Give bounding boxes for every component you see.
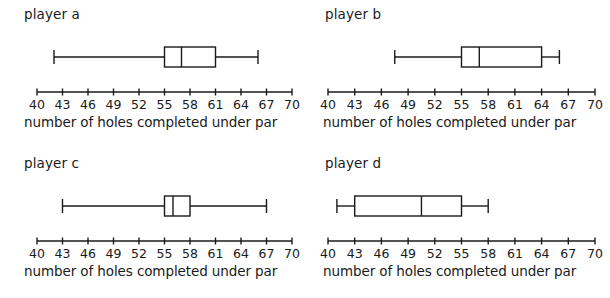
axis-tick-label: 70	[587, 246, 603, 261]
axis-tick-label: 43	[347, 97, 363, 112]
axis-tick-label: 55	[454, 97, 470, 112]
axis-tick-label: 55	[157, 97, 173, 112]
axis-tick-label: 46	[80, 246, 96, 261]
axis-tick-label: 40	[29, 97, 45, 112]
axis-caption-player-b: number of holes completed under par	[323, 114, 576, 130]
interquartile-box	[165, 196, 191, 216]
axis-tick-label: 49	[106, 246, 122, 261]
axis-caption-player-d: number of holes completed under par	[323, 263, 576, 279]
panel-player-c: player c 4043464952555861646770 number o…	[0, 149, 305, 298]
boxplot-figure-grid: player a 4043464952555861646770 number o…	[0, 0, 610, 298]
axis-tick-label: 70	[284, 97, 300, 112]
axis-tick-label: 40	[29, 246, 45, 261]
axis-tick-label: 52	[427, 97, 443, 112]
axis-tick-label: 64	[233, 97, 249, 112]
axis-tick-label: 67	[259, 97, 275, 112]
axis-tick-label: 70	[284, 246, 300, 261]
axis-tick-label: 67	[560, 97, 576, 112]
axis-tick-label: 67	[560, 246, 576, 261]
panel-player-a: player a 4043464952555861646770 number o…	[0, 0, 305, 149]
axis-tick-label: 46	[373, 97, 389, 112]
axis-tick-label: 64	[233, 246, 249, 261]
axis-tick-label: 67	[259, 246, 275, 261]
axis-tick-label: 58	[480, 97, 496, 112]
axis-tick-label: 70	[587, 97, 603, 112]
axis-tick-label: 52	[131, 246, 147, 261]
axis-tick-label: 46	[373, 246, 389, 261]
axis-tick-label: 61	[208, 97, 224, 112]
axis-tick-label: 52	[427, 246, 443, 261]
axis-tick-label: 46	[80, 97, 96, 112]
axis-tick-label: 49	[106, 97, 122, 112]
axis-tick-label: 61	[507, 97, 523, 112]
axis-tick-label: 40	[320, 97, 336, 112]
axis-tick-label: 49	[400, 97, 416, 112]
interquartile-box	[355, 196, 462, 216]
axis-tick-label: 58	[480, 246, 496, 261]
axis-tick-label: 64	[534, 97, 550, 112]
axis-tick-label: 58	[182, 97, 198, 112]
axis-tick-label: 55	[157, 246, 173, 261]
axis-tick-label: 61	[507, 246, 523, 261]
axis-tick-label: 40	[320, 246, 336, 261]
interquartile-box	[462, 47, 542, 67]
axis-tick-label: 61	[208, 246, 224, 261]
axis-caption-player-c: number of holes completed under par	[24, 263, 277, 279]
axis-tick-label: 55	[454, 246, 470, 261]
panel-player-b: player b 4043464952555861646770 number o…	[305, 0, 610, 149]
axis-tick-label: 43	[347, 246, 363, 261]
axis-tick-label: 43	[55, 246, 71, 261]
axis-tick-label: 43	[55, 97, 71, 112]
axis-caption-player-a: number of holes completed under par	[24, 114, 277, 130]
axis-tick-label: 52	[131, 97, 147, 112]
interquartile-box	[165, 47, 216, 67]
axis-tick-label: 58	[182, 246, 198, 261]
axis-tick-label: 64	[534, 246, 550, 261]
panel-player-d: player d 4043464952555861646770 number o…	[305, 149, 610, 298]
axis-tick-label: 49	[400, 246, 416, 261]
